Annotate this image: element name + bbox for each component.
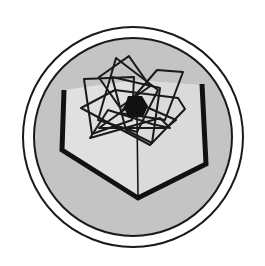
emblem-logo: [0, 0, 265, 266]
